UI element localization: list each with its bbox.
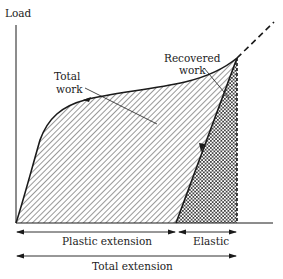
curve-continuation bbox=[237, 22, 274, 58]
total-work-label-1: Total bbox=[54, 70, 81, 82]
total-extension-dimension bbox=[16, 254, 237, 259]
plastic-extension-dimension bbox=[16, 230, 176, 235]
recovered-work-label-1: Recovered bbox=[164, 52, 221, 64]
recovered-work-label-2: work bbox=[179, 64, 206, 76]
plastic-extension-label: Plastic extension bbox=[62, 235, 152, 247]
total-work-label-2: work bbox=[56, 83, 83, 95]
y-axis-label: Load bbox=[5, 7, 32, 19]
elastic-extension-label: Elastic bbox=[193, 235, 229, 247]
load-extension-diagram: Load Total work Recovered work Plastic e… bbox=[0, 0, 283, 279]
elastic-extension-dimension bbox=[178, 230, 237, 235]
total-extension-label: Total extension bbox=[92, 260, 173, 272]
